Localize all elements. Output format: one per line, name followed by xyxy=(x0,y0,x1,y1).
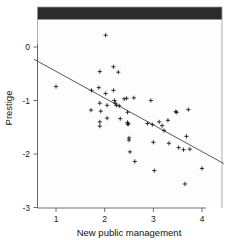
x-tick-label-4: 4 xyxy=(200,214,205,224)
y-tick-label-0: 0 xyxy=(25,42,30,52)
x-axis-title: New public management xyxy=(77,227,182,238)
x-tick-label-1: 1 xyxy=(54,214,59,224)
y-tick-label-1: -1 xyxy=(22,96,30,106)
y-axis-title: Prestige xyxy=(3,91,14,126)
top-band xyxy=(38,7,223,20)
x-tick-label-3: 3 xyxy=(151,214,156,224)
y-tick-label-2: -2 xyxy=(22,149,30,159)
y-axis-ticks xyxy=(34,47,38,208)
plot-area-background xyxy=(37,7,222,208)
x-tick-label-2: 2 xyxy=(102,214,107,224)
x-axis-ticks xyxy=(56,208,202,212)
scatter-plot-figure: 0 -1 -2 -3 1 2 3 4 New public management… xyxy=(0,0,231,240)
y-tick-label-3: -3 xyxy=(22,203,30,213)
plot-svg: 0 -1 -2 -3 1 2 3 4 New public management… xyxy=(0,0,231,240)
